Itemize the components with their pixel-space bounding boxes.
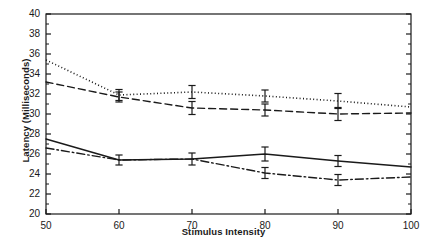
x-axis-label: Stimulus Intensity [0, 226, 427, 237]
chart-figure: Latency (Milliseconds) 20222426283032343… [0, 0, 427, 244]
x-axis-ticks: 5060708090100 [0, 0, 427, 244]
x-axis-label-text: Stimulus Intensity [182, 226, 266, 237]
